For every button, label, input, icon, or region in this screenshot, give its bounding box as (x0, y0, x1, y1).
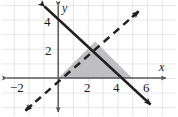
x-tick-label-neg2: −2 (10, 81, 24, 94)
graph-canvas (0, 0, 178, 117)
y-tick-label-4: 4 (44, 15, 51, 28)
x-tick-label-6: 6 (143, 81, 150, 94)
graph-screenshot: 4 2 −2 2 4 6 x y (0, 0, 178, 117)
y-axis-name: y (62, 2, 67, 14)
x-axis-name: x (159, 61, 164, 73)
x-tick-label-4: 4 (113, 81, 120, 94)
x-tick-label-2: 2 (84, 81, 91, 94)
coordinate-plane-figure: 4 2 −2 2 4 6 x y (0, 0, 178, 117)
y-tick-label-2: 2 (45, 44, 52, 57)
